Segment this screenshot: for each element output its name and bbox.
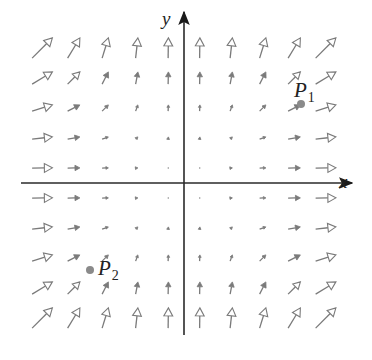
vector-arrow <box>288 225 300 230</box>
vector-arrow <box>199 197 200 198</box>
vector-arrow <box>68 282 80 294</box>
vector-arrow <box>32 38 52 58</box>
vector-arrow <box>68 195 80 200</box>
vector-arrow <box>197 72 202 84</box>
vector-arrow <box>260 197 266 200</box>
vector-arrow <box>102 226 108 229</box>
y-axis-label: y <box>162 9 170 28</box>
point-p1-subscript: 1 <box>308 90 315 105</box>
vector-arrow <box>135 227 138 230</box>
vector-arrow <box>198 227 201 230</box>
vector-arrow <box>166 282 171 294</box>
vector-arrow <box>164 38 173 58</box>
vector-arrow <box>288 135 300 140</box>
vector-arrow <box>168 167 169 168</box>
vector-arrow <box>316 194 336 203</box>
vector-arrow <box>102 282 108 294</box>
vector-field-diagram <box>0 0 372 360</box>
vector-arrow <box>198 137 201 140</box>
vector-arrow <box>230 167 233 170</box>
vector-arrow <box>32 72 52 84</box>
vector-arrow <box>230 105 233 111</box>
vector-arrow <box>32 194 52 203</box>
vector-arrow <box>32 223 52 232</box>
vector-arrow <box>68 308 80 328</box>
vector-arrow <box>259 38 267 58</box>
vector-arrow <box>197 282 202 294</box>
vector-arrow <box>230 255 233 261</box>
vector-arrow <box>316 282 336 294</box>
vector-arrow <box>68 38 80 58</box>
vector-arrow <box>229 282 234 294</box>
vector-arrow <box>134 282 139 294</box>
vector-arrow <box>134 72 139 84</box>
vector-arrow <box>102 105 108 111</box>
vector-arrow <box>136 255 139 261</box>
vector-arrow <box>316 72 336 84</box>
vector-arrow <box>288 38 300 58</box>
vector-arrow <box>260 105 266 111</box>
vector-arrow <box>260 226 266 229</box>
vector-arrow <box>288 282 300 294</box>
vector-arrow <box>32 133 52 142</box>
x-axis-label: x <box>339 172 347 191</box>
vector-arrow <box>168 197 169 198</box>
vector-arrow <box>167 105 170 111</box>
vector-arrow <box>32 164 52 173</box>
vector-arrow <box>227 38 236 58</box>
vector-arrow <box>260 282 266 294</box>
vector-arrow <box>316 308 336 328</box>
vector-arrow <box>102 308 110 328</box>
vector-arrow <box>68 255 80 261</box>
vector-arrow <box>199 167 200 168</box>
vector-arrow <box>102 197 108 200</box>
vector-arrow <box>288 165 300 170</box>
vector-arrow <box>164 308 173 328</box>
vector-arrow <box>102 136 108 139</box>
point-p2-name: P <box>98 256 111 280</box>
vector-arrow <box>68 225 80 230</box>
vector-arrow <box>316 164 336 173</box>
vector-arrow <box>32 282 52 294</box>
vector-arrow <box>102 167 108 170</box>
vector-arrow <box>316 253 336 261</box>
vector-arrow <box>230 227 233 230</box>
vector-arrow <box>288 308 300 328</box>
vector-arrow <box>167 137 170 140</box>
vector-arrow <box>227 308 236 328</box>
vector-arrow <box>198 105 201 111</box>
vector-arrow <box>32 308 52 328</box>
vector-arrow <box>195 308 204 328</box>
point-p1-label: P1 <box>294 80 314 101</box>
vector-arrow <box>316 38 336 58</box>
vector-arrow <box>195 38 204 58</box>
vector-arrow <box>316 103 336 111</box>
vector-arrow <box>32 103 52 111</box>
vector-arrow <box>166 72 171 84</box>
vector-arrow <box>68 105 80 111</box>
vector-arrow <box>167 255 170 261</box>
vector-arrow <box>260 72 266 84</box>
point-p1-name: P <box>294 78 307 102</box>
vector-arrow <box>102 38 110 58</box>
vector-arrow <box>230 197 233 200</box>
vector-arrow <box>260 136 266 139</box>
vector-arrow <box>259 308 267 328</box>
vector-arrow <box>198 255 201 261</box>
vector-arrow <box>68 72 80 84</box>
vector-arrow <box>230 137 233 140</box>
vector-arrow <box>136 105 139 111</box>
vector-arrow <box>288 255 300 261</box>
vector-arrow <box>135 197 138 200</box>
vector-arrow <box>68 165 80 170</box>
vector-arrow <box>260 255 266 261</box>
vector-arrow <box>135 137 138 140</box>
vector-arrow <box>288 195 300 200</box>
vector-arrow <box>167 227 170 230</box>
vector-arrow <box>316 133 336 142</box>
vector-arrow <box>135 167 138 170</box>
vector-arrow <box>32 253 52 261</box>
vector-arrow <box>133 38 142 58</box>
vector-arrow <box>229 72 234 84</box>
vector-arrow <box>133 308 142 328</box>
